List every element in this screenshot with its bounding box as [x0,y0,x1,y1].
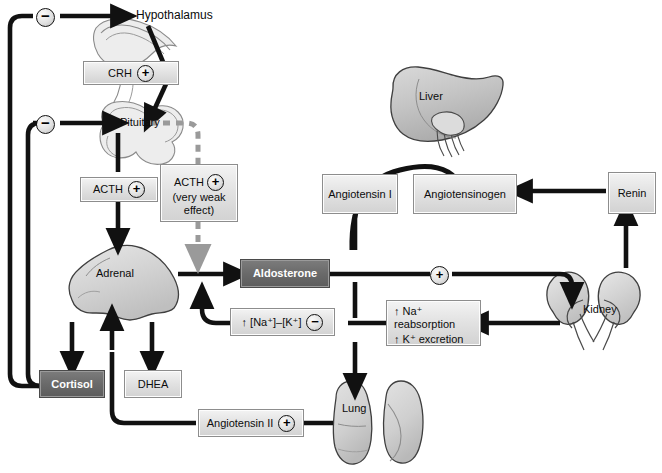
label-hypothalamus: Hypothalamus [136,8,213,22]
angiotensin-i-label: Angiotensin I [328,188,392,201]
na-k-ratio-minus-icon: − [306,314,323,331]
acth-label: ACTH [93,183,123,196]
box-acth[interactable]: ACTH + [80,177,158,202]
renin-label: Renin [618,187,647,200]
label-lung: Lung [342,402,366,414]
lung-art [333,381,423,464]
crh-plus-icon: + [137,65,154,82]
acth-weak-plus-icon: + [207,174,224,191]
wire-cortisol-to-pituitary [28,123,52,386]
k-excretion-label: ↑ K⁺ excretion [394,333,480,346]
angiotensin-ii-label: Angiotensin II [207,417,274,430]
cortisol-label: Cortisol [51,378,93,391]
box-na-k-transport[interactable]: ↑ Na⁺ reabsorption ↑ K⁺ excretion [386,300,481,346]
box-crh[interactable]: CRH + [83,61,179,85]
box-renin[interactable]: Renin [608,172,656,214]
acth-weak-sub-line2: effect) [184,204,214,217]
hypothalamus-pituitary-art [94,19,184,165]
aldosterone-label: Aldosterone [253,267,317,280]
label-adrenal: Adrenal [96,267,134,279]
label-pituitary: Pituitary [120,116,160,128]
box-angiotensinogen[interactable]: Angiotensinogen [413,174,517,214]
acth-plus-icon: + [128,181,145,198]
liver-art [391,67,503,157]
crh-label: CRH [108,67,132,80]
box-na-k-ratio[interactable]: ↑ [Na⁺]–[K⁺] − [230,308,335,336]
dhea-label: DHEA [138,378,169,391]
diagram-canvas: Hypothalamus Pituitary Adrenal Liver Kid… [0,0,662,473]
aldosterone-kidney-plus-icon: + [430,266,449,285]
na-reabsorption-label: ↑ Na⁺ reabsorption [394,305,480,331]
box-dhea[interactable]: DHEA [124,370,182,398]
adrenal-gland-art [69,246,178,321]
na-k-ratio-label: ↑ [Na⁺]–[K⁺] [242,316,302,329]
angiotensin-ii-plus-icon: + [278,415,295,432]
acth-weak-sub-line1: (very weak [172,191,225,204]
label-liver: Liver [419,90,443,102]
feedback-minus-hypothalamus-icon: − [36,8,55,27]
label-kidney: Kidney [583,303,617,315]
box-acth-weak[interactable]: ACTH + (very weak effect) [160,164,238,222]
box-angiotensin-ii[interactable]: Angiotensin II + [198,409,304,437]
box-cortisol[interactable]: Cortisol [39,370,105,398]
box-aldosterone[interactable]: Aldosterone [240,259,330,288]
acth-weak-label: ACTH [174,176,204,189]
feedback-minus-pituitary-icon: − [36,115,55,134]
angiotensinogen-label: Angiotensinogen [424,188,506,201]
box-angiotensin-i[interactable]: Angiotensin I [322,174,398,214]
wire-cortisol-to-hypothalamus [10,16,40,386]
